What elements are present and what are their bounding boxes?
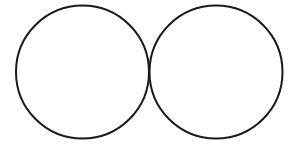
background bbox=[0, 0, 289, 150]
two-circles-diagram bbox=[0, 0, 289, 150]
figure-canvas bbox=[0, 0, 289, 150]
